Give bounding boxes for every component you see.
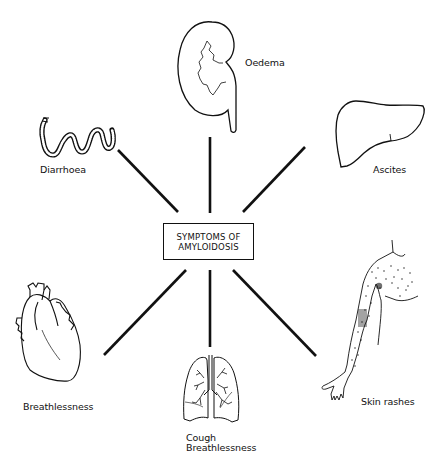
- heart-icon: [16, 283, 80, 381]
- label-skin-rashes: Skin rashes: [361, 396, 415, 407]
- connector-ascites: [243, 147, 305, 212]
- label-cough-breathlessness: Breathlessness: [186, 442, 256, 453]
- kidney-icon: [178, 22, 236, 133]
- label-breathlessness: Breathlessness: [23, 401, 93, 412]
- lungs-icon: [184, 355, 239, 422]
- label-oedema: Oedema: [245, 57, 285, 68]
- label-diarrhoea: Diarrhoea: [40, 164, 86, 175]
- intestine-icon: [42, 118, 113, 155]
- central-title-box: SYMPTOMS OF AMYLOIDOSIS: [163, 223, 254, 260]
- connector-diarrhoea: [118, 150, 178, 212]
- arm-skin-icon: [322, 240, 418, 400]
- title-line-2: AMYLOIDOSIS: [178, 242, 239, 252]
- title-line-1: SYMPTOMS OF: [176, 232, 240, 242]
- connector-skin-rashes: [233, 270, 316, 356]
- liver-icon: [336, 101, 424, 167]
- connector-breathlessness: [104, 270, 186, 355]
- label-ascites: Ascites: [373, 164, 406, 175]
